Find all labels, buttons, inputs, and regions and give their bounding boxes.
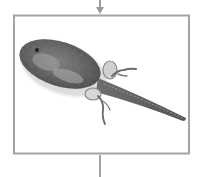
arrow-head-icon (96, 7, 104, 14)
life-cycle-diagram (0, 0, 197, 177)
incoming-arrow (96, 0, 104, 14)
upper-leg-thigh (103, 61, 117, 79)
lower-leg-thigh (85, 88, 101, 100)
tadpole-eye (35, 48, 39, 52)
